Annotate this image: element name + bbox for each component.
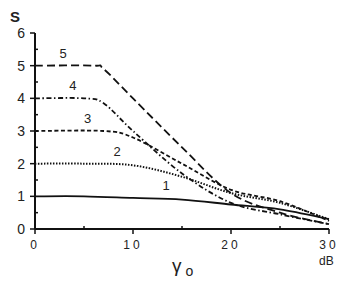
curve-labels: 12345 bbox=[60, 46, 170, 193]
curves bbox=[35, 65, 329, 224]
x-tick-label: 30 bbox=[319, 238, 338, 252]
x-tick-label: 20 bbox=[221, 238, 240, 252]
y-tick-label: 4 bbox=[17, 90, 25, 106]
x-axis-title: γo bbox=[172, 255, 194, 279]
y-tick-label: 2 bbox=[17, 156, 25, 172]
x-axis-unit: dB bbox=[319, 254, 334, 268]
y-tick-label: 1 bbox=[17, 188, 25, 204]
y-tick-label: 5 bbox=[17, 58, 25, 74]
x-tick-label: 10 bbox=[123, 238, 142, 252]
curve-label-5: 5 bbox=[60, 46, 67, 61]
curve-label-1: 1 bbox=[162, 178, 169, 193]
line-chart: 01234560102030 12345 S γo dB bbox=[0, 0, 346, 288]
x-axis-title-symbol: γ bbox=[172, 255, 182, 276]
x-axis-title-subscript: o bbox=[186, 263, 194, 279]
y-tick-label: 6 bbox=[17, 25, 25, 41]
y-tick-label: 3 bbox=[17, 123, 25, 139]
curve-3 bbox=[35, 131, 329, 221]
curve-label-3: 3 bbox=[84, 111, 91, 126]
y-tick-label: 0 bbox=[17, 221, 25, 237]
curve-label-4: 4 bbox=[69, 78, 76, 93]
curve-label-2: 2 bbox=[113, 144, 120, 159]
x-tick-label: 0 bbox=[30, 238, 40, 252]
y-axis-title: S bbox=[10, 8, 20, 25]
